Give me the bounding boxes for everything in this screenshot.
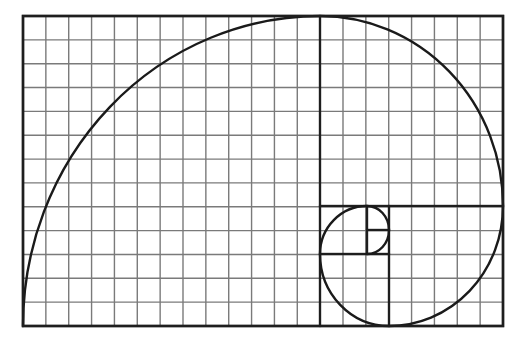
fibonacci-spiral-diagram bbox=[0, 0, 530, 344]
background bbox=[0, 0, 530, 344]
